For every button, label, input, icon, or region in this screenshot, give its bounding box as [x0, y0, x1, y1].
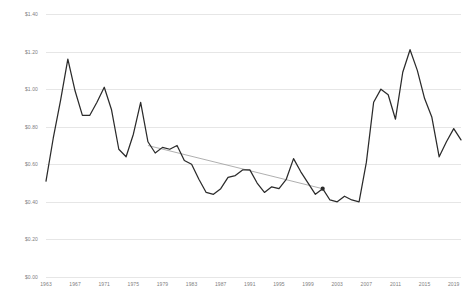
y-axis-tick-label: $0.40	[4, 199, 38, 205]
y-axis-tick-label: $0.00	[4, 274, 38, 280]
y-axis-tick-label: $1.20	[4, 49, 38, 55]
data-series-0	[46, 50, 461, 202]
trendline	[148, 146, 323, 189]
chart-plot-area	[0, 0, 471, 306]
x-axis-tick-label: 2019	[437, 281, 471, 287]
y-axis-tick-label: $0.60	[4, 161, 38, 167]
y-axis-tick-label: $1.00	[4, 86, 38, 92]
y-axis-tick-label: $0.20	[4, 236, 38, 242]
y-axis-tick-label: $1.40	[4, 11, 38, 17]
line-chart: $1.40$1.20$1.00$0.80$0.60$0.40$0.20$0.00…	[0, 0, 471, 306]
y-axis-tick-label: $0.80	[4, 124, 38, 130]
